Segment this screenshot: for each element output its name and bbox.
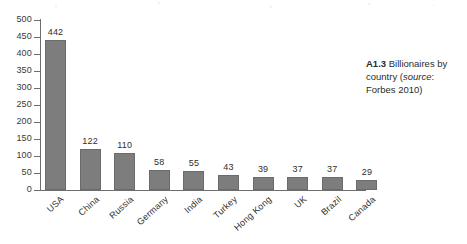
bar <box>322 177 343 190</box>
x-axis-category-text: USA <box>45 194 66 214</box>
bar-group: 37 <box>287 20 308 190</box>
y-axis-tick-label: 200 <box>2 117 32 126</box>
bar-value-label: 39 <box>258 165 268 174</box>
bar <box>287 177 308 190</box>
figure-billionaires-by-country: 500450400350300250200150100500 442122110… <box>0 0 467 244</box>
x-axis-category-text: China <box>76 194 101 218</box>
bar-group: 58 <box>149 20 170 190</box>
bar-value-label: 58 <box>154 158 164 167</box>
bar-value-label: 43 <box>223 163 233 172</box>
y-axis-tick-label: 0 <box>2 185 32 194</box>
bar-value-label: 29 <box>362 168 372 177</box>
bar <box>183 171 204 190</box>
y-axis-tick-label: 450 <box>2 32 32 41</box>
x-axis-line <box>40 190 366 191</box>
x-axis-category-text: Russia <box>107 194 135 221</box>
figure-caption: A1.3 Billionaires by country (source: Fo… <box>366 57 464 96</box>
y-axis-tick-label: 50 <box>2 168 32 177</box>
y-axis-tick-label: 250 <box>2 100 32 109</box>
bar-group: 39 <box>253 20 274 190</box>
bar <box>356 180 377 190</box>
x-axis-category-text: India <box>183 194 205 215</box>
bar-group: 110 <box>114 20 135 190</box>
bar-group: 37 <box>322 20 343 190</box>
bar-value-label: 122 <box>82 137 98 146</box>
x-axis-category-text: UK <box>292 194 308 210</box>
y-axis-tick-labels: 500450400350300250200150100500 <box>0 0 32 244</box>
y-axis-tick-label: 350 <box>2 66 32 75</box>
bar <box>45 40 66 190</box>
x-axis-category-text: Brazil <box>319 194 343 217</box>
bar-value-label: 37 <box>327 165 337 174</box>
bar-group: 43 <box>218 20 239 190</box>
bar-group: 442 <box>45 20 66 190</box>
bar-value-label: 110 <box>117 141 132 150</box>
y-axis-tick-label: 500 <box>2 15 32 24</box>
plot-area: 44212211058554339373729 <box>40 20 366 190</box>
y-axis-tick-label: 400 <box>2 49 32 58</box>
y-axis-tick-label: 100 <box>2 151 32 160</box>
y-axis-tick-label: 150 <box>2 134 32 143</box>
bar <box>114 153 135 190</box>
x-axis-category-text: Germany <box>135 194 170 227</box>
bar <box>149 170 170 190</box>
y-axis-tick-label: 300 <box>2 83 32 92</box>
bar <box>218 175 239 190</box>
scan-noise-artifact <box>0 0 467 10</box>
bar-group: 29 <box>356 20 377 190</box>
x-axis-category-text: Turkey <box>211 194 239 220</box>
caption-source-word: source <box>403 71 432 82</box>
caption-number: A1.3 <box>366 58 386 69</box>
bar-value-label: 442 <box>48 28 64 37</box>
y-axis-tick-mark <box>34 190 40 191</box>
bar-value-label: 37 <box>292 165 302 174</box>
bar-value-label: 55 <box>189 159 199 168</box>
bar <box>253 177 274 190</box>
bar <box>80 149 101 190</box>
bar-group: 122 <box>80 20 101 190</box>
x-axis-category-text: Canada <box>347 194 378 223</box>
bar-group: 55 <box>183 20 204 190</box>
